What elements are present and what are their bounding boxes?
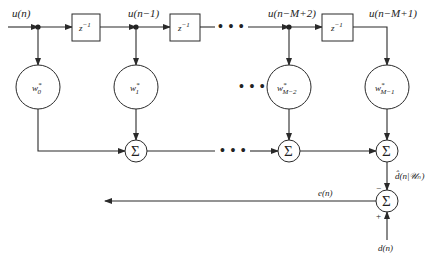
label-estimate: d̂(n|𝒰ₙ) <box>395 170 424 181</box>
plus-sign: + <box>376 211 381 221</box>
top-ellipsis: • • • <box>218 19 245 34</box>
error-summer: Σ <box>376 190 398 212</box>
delay-block-1: z−1 <box>72 14 100 41</box>
minus-sign: − <box>376 183 381 193</box>
summer-m1: Σ <box>376 140 398 162</box>
weight-w0: w*0 <box>16 65 60 109</box>
label-error: e(n) <box>318 188 333 198</box>
weight-wm2: w*M−2 <box>267 65 311 109</box>
label-desired: d(n) <box>378 243 393 253</box>
bottom-ellipsis: • • • <box>220 143 247 158</box>
svg-text:Σ: Σ <box>382 143 391 159</box>
delay-block-2: z−1 <box>170 14 200 41</box>
delay-block-3: z−1 <box>322 14 353 41</box>
summer-m2: Σ <box>278 140 300 162</box>
svg-text:Σ: Σ <box>382 193 391 209</box>
weight-w1: w*1 <box>114 65 158 109</box>
transversal-filter-diagram: • • • u(n) u(n−1) u(n−M+2) u(n−M+1) z−1 … <box>0 0 434 260</box>
middle-ellipsis: • • • <box>239 79 266 94</box>
svg-text:Σ: Σ <box>284 143 293 159</box>
summer-1: Σ <box>125 140 147 162</box>
label-u-n-m1: u(n−M+1) <box>369 7 417 20</box>
label-u-n-1: u(n−1) <box>128 7 160 20</box>
label-u-n-m2: u(n−M+2) <box>268 7 316 20</box>
weight-wm1: w*M−1 <box>365 65 409 109</box>
label-u-n: u(n) <box>12 7 31 20</box>
svg-text:Σ: Σ <box>131 143 140 159</box>
